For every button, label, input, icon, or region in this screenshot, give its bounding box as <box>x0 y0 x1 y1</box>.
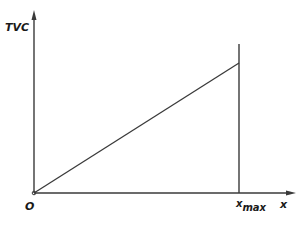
xmax-label: xmax <box>235 198 267 213</box>
tvc-diagram: TVC O xmax x <box>0 0 304 228</box>
y-axis-label: TVC <box>5 21 29 34</box>
tvc-line <box>34 63 239 193</box>
x-axis-label: x <box>279 198 288 211</box>
origin-label: O <box>25 200 34 213</box>
x-axis-arrow-icon <box>286 191 296 196</box>
y-axis-arrow-icon <box>32 10 37 20</box>
xmax-label-sub: max <box>242 202 266 213</box>
